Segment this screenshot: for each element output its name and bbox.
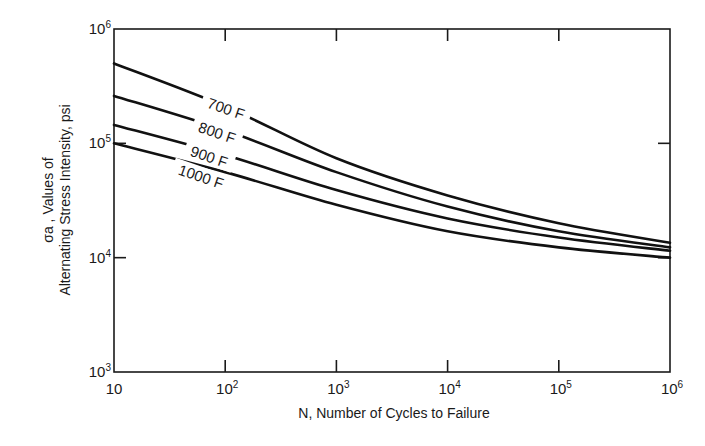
x-tick-label: 102 <box>216 379 239 397</box>
y-axis-title-line2: Alternating Stress Intensity, psi <box>57 104 73 295</box>
x-tick-label: 104 <box>438 379 461 397</box>
x-tick-label: 106 <box>661 379 684 397</box>
svg-text:800 F: 800 F <box>196 118 238 147</box>
x-tick-label: 105 <box>550 379 573 397</box>
plot-frame <box>114 29 670 372</box>
y-tick-labels: 106105104103 <box>89 19 112 380</box>
x-tick-label: 103 <box>327 379 350 397</box>
chart: 700 F800 F900 F1000 F 10102103104105106 … <box>0 0 705 446</box>
x-axis-title: N, Number of Cycles to Failure <box>298 405 490 421</box>
plot-border <box>114 29 670 372</box>
y-tick-label: 104 <box>89 248 112 266</box>
svg-text:700 F: 700 F <box>205 94 247 123</box>
y-tick-label: 105 <box>89 133 112 151</box>
axis-ticks <box>114 29 670 372</box>
x-tick-labels: 10102103104105106 <box>106 379 684 397</box>
y-tick-label: 106 <box>89 19 112 37</box>
x-tick-label: 10 <box>106 380 123 397</box>
y-axis-title-line1: σa , Values of <box>40 157 56 243</box>
y-axis-title: σa , Values of Alternating Stress Intens… <box>40 104 73 295</box>
y-tick-label: 103 <box>89 362 112 380</box>
